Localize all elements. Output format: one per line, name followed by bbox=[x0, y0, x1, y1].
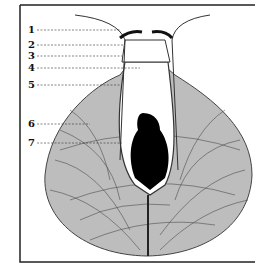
label-7: 7 bbox=[28, 138, 35, 148]
upper-arc-left bbox=[120, 32, 142, 38]
upper-arc-right bbox=[152, 32, 172, 38]
label-2: 2 bbox=[28, 40, 35, 50]
label-6: 6 bbox=[28, 119, 35, 129]
label-1: 1 bbox=[28, 25, 35, 35]
label-5: 5 bbox=[28, 80, 35, 90]
upper-structure bbox=[122, 40, 170, 62]
label-4: 4 bbox=[28, 63, 35, 73]
anatomical-diagram bbox=[0, 0, 255, 270]
label-3: 3 bbox=[28, 51, 35, 61]
